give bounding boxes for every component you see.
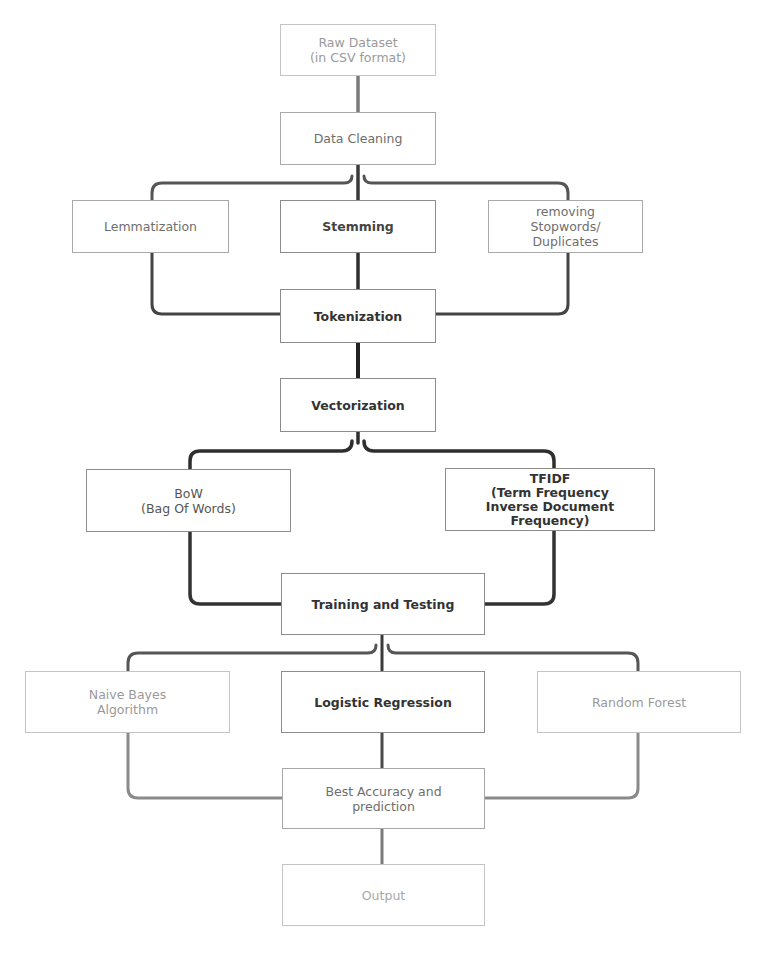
node-training-testing: Training and Testing bbox=[281, 573, 485, 635]
node-raw-dataset: Raw Dataset (in CSV format) bbox=[280, 24, 436, 76]
node-tfidf: TFIDF (Term Frequency Inverse Document F… bbox=[445, 468, 655, 531]
node-naive-bayes: Naive Bayes Algorithm bbox=[25, 671, 230, 733]
node-bow: BoW (Bag Of Words) bbox=[86, 469, 291, 532]
edge-training-to-naive bbox=[128, 645, 376, 671]
edge-lemmatization-to-tokenization bbox=[152, 253, 280, 314]
flowchart-canvas: Raw Dataset (in CSV format) Data Cleanin… bbox=[0, 0, 768, 955]
edge-removing-to-tokenization bbox=[436, 253, 568, 314]
edge-vectorization-to-tfidf bbox=[364, 441, 554, 468]
edge-vectorization-to-bow bbox=[190, 441, 352, 469]
node-data-cleaning: Data Cleaning bbox=[280, 112, 436, 165]
node-lemmatization: Lemmatization bbox=[72, 200, 229, 253]
node-best-accuracy: Best Accuracy and prediction bbox=[282, 768, 485, 829]
edge-tfidf-to-training bbox=[485, 531, 554, 604]
node-random-forest: Random Forest bbox=[537, 671, 741, 733]
node-removing-stopwords: removing Stopwords/ Duplicates bbox=[488, 200, 643, 253]
node-vectorization: Vectorization bbox=[280, 378, 436, 432]
edge-bow-to-training bbox=[190, 532, 281, 604]
node-tokenization: Tokenization bbox=[280, 289, 436, 343]
edge-training-to-random bbox=[388, 645, 638, 671]
edge-naive-to-best bbox=[128, 733, 282, 798]
node-output: Output bbox=[282, 864, 485, 926]
node-stemming: Stemming bbox=[280, 200, 436, 253]
edge-cleaning-to-lemmatization bbox=[152, 176, 352, 200]
node-logistic-regression: Logistic Regression bbox=[281, 671, 485, 733]
edge-random-to-best bbox=[485, 733, 638, 798]
edge-cleaning-to-removing bbox=[364, 176, 568, 200]
